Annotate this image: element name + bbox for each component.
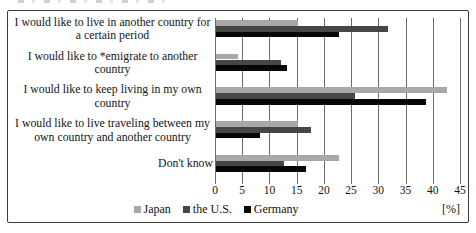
legend-swatch-icon — [244, 206, 251, 213]
x-tick-label: 30 — [373, 184, 385, 196]
legend-swatch-icon — [183, 206, 190, 213]
legend-item: Germany — [244, 202, 299, 217]
chart-frame: I would like to live in another country … — [7, 10, 469, 223]
legend-item: Japan — [134, 202, 171, 217]
legend-swatch-icon — [134, 206, 141, 213]
legend-item: the U.S. — [183, 202, 232, 217]
x-tick-label: 5 — [239, 184, 245, 196]
x-tick-label: 35 — [400, 184, 412, 196]
unit-label: [%] — [442, 202, 460, 217]
x-tick-label: 20 — [318, 184, 330, 196]
x-tick-label: 10 — [264, 184, 276, 196]
x-tick-label: 0 — [212, 184, 218, 196]
x-tick-label: 25 — [345, 184, 357, 196]
x-tick-label: 40 — [427, 184, 439, 196]
x-tick-label: 15 — [291, 184, 303, 196]
figure-canvas: I would like to live in another country … — [0, 0, 476, 233]
legend-label: the U.S. — [193, 202, 232, 217]
legend-label: Japan — [144, 202, 171, 217]
x-axis: 051015202530354045 — [8, 11, 468, 222]
legend-label: Germany — [254, 202, 299, 217]
legend: Japanthe U.S.Germany — [0, 201, 446, 217]
x-tick-label: 45 — [454, 184, 466, 196]
cropped-text-fragment — [18, 0, 168, 3]
